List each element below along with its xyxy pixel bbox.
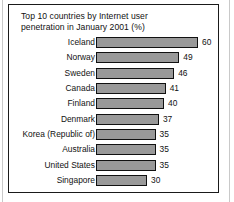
bar-row: Canada41 (9, 81, 218, 96)
bar-value-label: 60 (202, 38, 211, 47)
bar-row: Australia35 (9, 142, 218, 157)
bar-value-label: 30 (151, 176, 160, 185)
bar-value-label: 40 (168, 99, 177, 108)
bar-wrapper: 30 (96, 173, 160, 188)
bar (96, 160, 156, 171)
bar-wrapper: 49 (96, 50, 193, 65)
bar (96, 144, 156, 155)
bar-category-label: Iceland (0, 38, 95, 47)
bar-category-label: Korea (Republic of) (0, 130, 95, 139)
bar-wrapper: 35 (96, 157, 169, 172)
plot-area: Iceland60Norway49Sweden46Canada41Finland… (9, 35, 218, 192)
bar-row: Singapore30 (9, 173, 218, 188)
bar-value-label: 37 (163, 115, 172, 124)
chart-title: Top 10 countries by Internet user penetr… (21, 11, 199, 32)
chart-frame: Top 10 countries by Internet user penetr… (8, 4, 219, 193)
bar-category-label: Australia (0, 145, 95, 154)
bar-value-label: 35 (160, 130, 169, 139)
bar-row: Sweden46 (9, 66, 218, 81)
bar (96, 114, 159, 125)
bar-value-label: 35 (160, 161, 169, 170)
bar (96, 129, 156, 140)
bar-row: Norway49 (9, 50, 218, 65)
bar-category-label: Singapore (0, 176, 95, 185)
bar-category-label: Finland (0, 99, 95, 108)
bar-wrapper: 60 (96, 35, 211, 50)
bar-row: Korea (Republic of)35 (9, 127, 218, 142)
bar-row: Iceland60 (9, 35, 218, 50)
bar-row: Denmark37 (9, 112, 218, 127)
bar-category-label: United States (0, 161, 95, 170)
bar-value-label: 46 (178, 69, 187, 78)
bar-value-label: 49 (183, 53, 192, 62)
bar-row: United States35 (9, 157, 218, 172)
page-rule-right (229, 0, 230, 202)
bar (96, 175, 147, 186)
bar-category-label: Norway (0, 53, 95, 62)
bar (96, 98, 164, 109)
bar (96, 83, 166, 94)
bar-wrapper: 37 (96, 112, 172, 127)
bar-wrapper: 40 (96, 96, 177, 111)
bar-wrapper: 46 (96, 66, 188, 81)
bar (96, 68, 174, 79)
bar (96, 52, 179, 63)
bar-wrapper: 41 (96, 81, 179, 96)
bar-category-label: Sweden (0, 69, 95, 78)
figure-root: Top 10 countries by Internet user penetr… (0, 0, 234, 202)
bar-wrapper: 35 (96, 127, 169, 142)
bar-category-label: Canada (0, 84, 95, 93)
bar-category-label: Denmark (0, 115, 95, 124)
bar-value-label: 41 (170, 84, 179, 93)
bar-value-label: 35 (160, 145, 169, 154)
bar-wrapper: 35 (96, 142, 169, 157)
bar-row: Finland40 (9, 96, 218, 111)
bar (96, 37, 198, 48)
